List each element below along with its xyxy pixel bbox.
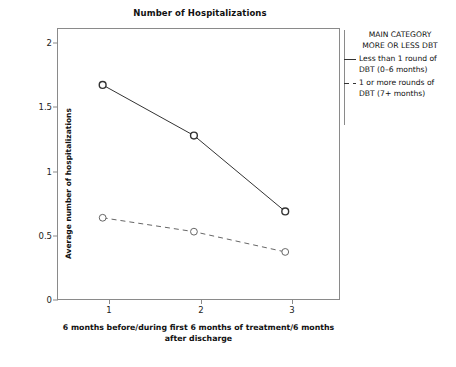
series-less-than-1-round <box>99 82 288 215</box>
data-point-marker[interactable] <box>99 82 106 89</box>
series-1-or-more-rounds <box>99 214 288 255</box>
legend-entry-solid-line2: DBT (0–6 months) <box>359 65 428 74</box>
legend-entry-dashed-line2: DBT (7+ months) <box>359 89 425 98</box>
legend-title: MAIN CATEGORY MORE OR LESS DBT <box>344 30 452 51</box>
chart-figure: Number of Hospitalizations Average numbe… <box>0 0 456 367</box>
legend: MAIN CATEGORY MORE OR LESS DBT Less than… <box>344 30 456 99</box>
legend-entry-solid[interactable]: Less than 1 round of DBT (0–6 months) <box>344 54 456 75</box>
legend-title-line1: MAIN CATEGORY <box>369 30 432 39</box>
legend-line-solid-icon <box>344 59 356 60</box>
data-point-marker[interactable] <box>191 228 198 235</box>
data-point-marker[interactable] <box>282 249 289 256</box>
series-line <box>103 85 286 212</box>
data-point-marker[interactable] <box>282 208 289 215</box>
x-axis-label-line1: 6 months before/during first 6 months of… <box>63 323 334 332</box>
legend-entry-dashed[interactable]: 1 or more rounds of DBT (7+ months) <box>344 78 456 99</box>
legend-entry-solid-line1: Less than 1 round of <box>359 54 437 63</box>
legend-line-dashed-icon <box>344 83 356 84</box>
data-point-marker[interactable] <box>99 214 106 221</box>
x-axis-label: 6 months before/during first 6 months of… <box>52 322 345 344</box>
data-point-marker[interactable] <box>191 132 198 139</box>
legend-title-line2: MORE OR LESS DBT <box>362 41 437 50</box>
legend-entry-dashed-line1: 1 or more rounds of <box>359 78 434 87</box>
x-axis-label-line2: after discharge <box>165 334 232 343</box>
